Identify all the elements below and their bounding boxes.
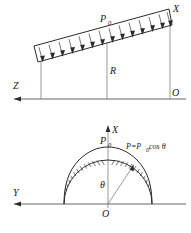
lower-panel-arch: X P 0 P=P 0 cos θ θ O Y [0, 116, 191, 233]
load-formula-tail: cos θ [149, 142, 166, 151]
upper-x-axis-label: X [172, 3, 180, 14]
radius-label: R [109, 65, 116, 76]
z-axis-arrowhead [14, 97, 21, 102]
lower-load-label: P [99, 135, 106, 146]
beam-line [38, 25, 172, 62]
x-axis-arrowhead [106, 125, 111, 132]
theta-radius-ray [108, 166, 133, 204]
upper-load-label: P [99, 13, 106, 24]
upper-origin-label: O [172, 87, 179, 98]
theta-angle-label: θ [100, 179, 105, 190]
load-formula-head: P=P [125, 142, 141, 151]
lower-y-axis-label: Y [13, 187, 20, 198]
upper-panel-inclined-beam: P 0 X Z O R [0, 0, 191, 116]
load-band-left-cap [34, 46, 38, 62]
mechanics-figure: P 0 X Z O R [0, 0, 191, 233]
lower-x-axis-label: X [111, 124, 119, 135]
upper-z-axis-label: Z [13, 80, 19, 91]
y-axis-arrowhead [14, 202, 21, 207]
lower-origin-label: O [102, 208, 109, 219]
